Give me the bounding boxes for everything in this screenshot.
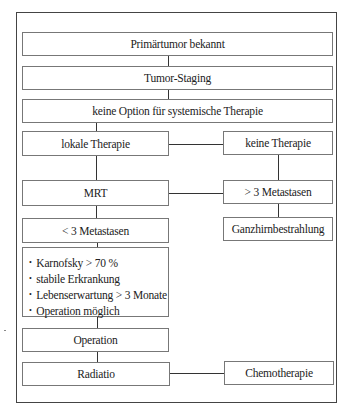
node-operation: Operation: [22, 328, 169, 352]
node-keine-option: keine Option für systemische Therapie: [22, 99, 333, 123]
node-lokale-therapie: lokale Therapie: [22, 131, 169, 156]
node-label: > 3 Metastasen: [245, 186, 312, 198]
criteria-item: • stabile Erkrankung: [29, 272, 168, 288]
criteria-item: • Karnofsky > 70 %: [29, 256, 168, 272]
connector: [96, 156, 97, 180]
node-label: lokale Therapie: [61, 138, 130, 150]
connector: [278, 155, 279, 180]
node-criteria: • Karnofsky > 70 % • stabile Erkrankung …: [22, 247, 169, 317]
node-radiatio: Radiatio: [22, 362, 170, 386]
connector: [169, 144, 223, 145]
node-tumor-staging: Tumor-Staging: [22, 66, 333, 90]
node-weniger-3-metastasen: < 3 Metastasen: [22, 218, 169, 243]
node-chemotherapie: Chemotherapie: [224, 361, 334, 385]
node-label: Primärtumor bekannt: [130, 38, 224, 50]
node-primaertumor: Primärtumor bekannt: [22, 32, 333, 56]
node-label: < 3 Metastasen: [62, 225, 129, 237]
node-keine-therapie: keine Therapie: [223, 131, 333, 155]
node-label: MRT: [84, 187, 108, 199]
connector: [170, 373, 224, 374]
node-mehr-3-metastasen: > 3 Metastasen: [223, 180, 333, 204]
connector: [168, 56, 169, 66]
node-mrt: MRT: [22, 180, 169, 206]
connector: [97, 317, 98, 328]
node-label: Operation: [73, 334, 117, 346]
connector: [96, 123, 97, 131]
node-ganzhirnbestrahlung: Ganzhirnbestrahlung: [223, 217, 333, 241]
node-label: Ganzhirnbestrahlung: [232, 223, 325, 235]
connector: [97, 352, 98, 362]
criteria-item: • Operation möglich: [29, 304, 168, 320]
scan-artifact: [4, 330, 6, 331]
node-label: Radiatio: [77, 368, 114, 380]
connector: [96, 206, 97, 218]
connector: [169, 193, 223, 194]
connector: [278, 204, 279, 217]
connector: [168, 90, 169, 99]
node-label: keine Therapie: [245, 137, 311, 149]
node-label: Tumor-Staging: [144, 72, 211, 84]
node-label: Chemotherapie: [245, 367, 313, 379]
criteria-item: • Lebenserwartung > 3 Monate: [29, 288, 168, 304]
node-label: keine Option für systemische Therapie: [92, 105, 263, 117]
